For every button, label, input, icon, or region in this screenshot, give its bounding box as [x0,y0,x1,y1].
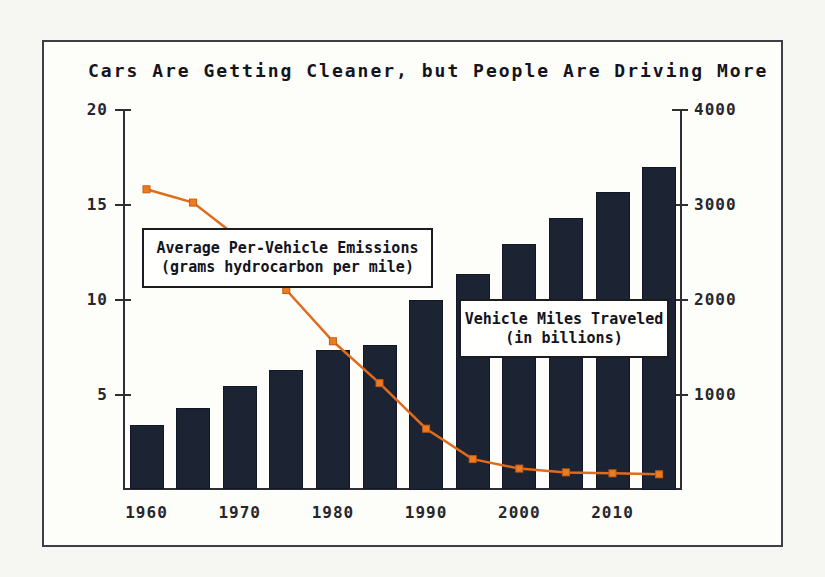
right-axis-tick [672,109,688,111]
left-axis-tick [115,394,131,396]
left-axis-tick-label: 15 [62,197,108,213]
bar-1965 [176,408,210,490]
left-axis-tick [115,109,131,111]
x-axis-year-label: 1990 [391,503,461,522]
bar-1990 [409,300,443,490]
x-axis-year-label: 1960 [112,503,182,522]
right-axis-tick-label: 1000 [694,387,754,403]
bar-1970 [223,386,257,490]
x-axis-year-label: 1980 [298,503,368,522]
emissions-annotation-line2: (grams hydrocarbon per mile) [161,258,414,277]
scanned-chart-page: { "chart": { "title": "Cars Are Getting … [0,0,825,577]
x-axis-year-label: 2000 [484,503,554,522]
left-axis-tick-label: 10 [62,292,108,308]
x-axis-year-label: 1970 [205,503,275,522]
bar-1960 [130,425,164,490]
emissions-annotation-box: Average Per-Vehicle Emissions (grams hyd… [142,228,433,288]
left-axis-tick-label: 20 [62,102,108,118]
left-axis-tick [115,204,131,206]
vmt-annotation-line1: Vehicle Miles Traveled [465,310,664,329]
left-axis-tick-label: 5 [62,387,108,403]
vmt-annotation-box: Vehicle Miles Traveled (in billions) [459,299,669,358]
vmt-annotation-line2: (in billions) [505,329,622,348]
chart-title: Cars Are Getting Cleaner, but People Are… [88,60,788,81]
right-axis-tick-label: 2000 [694,292,754,308]
bar-2000 [502,244,536,489]
bar-1980 [316,350,350,490]
right-axis-tick-label: 4000 [694,102,754,118]
bar-1985 [363,345,397,489]
x-axis-year-label: 2010 [578,503,648,522]
right-axis-tick-label: 3000 [694,197,754,213]
emissions-annotation-line1: Average Per-Vehicle Emissions [157,239,419,258]
bar-1975 [269,370,303,490]
left-axis-tick [115,299,131,301]
